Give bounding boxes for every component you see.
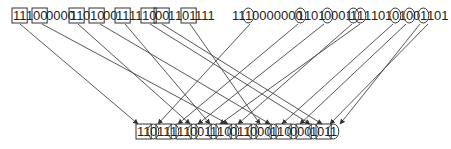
mapping-arrow <box>300 24 406 124</box>
bit-segment: 11 <box>69 8 84 23</box>
mapping-arrow <box>198 24 324 124</box>
mapping-arrow <box>150 24 310 124</box>
mapping-arrow <box>158 24 250 124</box>
arrow-group <box>20 24 428 124</box>
bit-segment: 11 <box>12 8 27 23</box>
bit-text: 11 <box>70 8 84 23</box>
bit-text: 01 <box>434 8 448 23</box>
mapping-arrow <box>238 24 352 124</box>
bit-text: 111 <box>195 8 215 23</box>
bit-text: 11 <box>13 8 27 23</box>
mapping-arrow <box>340 24 420 124</box>
mapping-arrow <box>100 24 270 124</box>
top-right-bit-string: 11100000001101000111110101001101 <box>232 8 448 23</box>
mapping-arrow <box>178 24 298 124</box>
top-left-bit-string: 1110000001101000111110001101111 <box>12 8 215 23</box>
bit-text: 11 <box>157 124 171 139</box>
bit-string-mapping-diagram: 1110000001101000111110001101111 11100000… <box>0 0 451 149</box>
bottom-bit-string: 110111110011100110001100001011 <box>136 124 339 139</box>
bit-text: 11 <box>237 124 251 139</box>
bit-text: 11 <box>177 124 191 139</box>
bit-text: 1 <box>330 124 337 139</box>
mapping-arrow <box>125 24 210 124</box>
bit-segment: 11 <box>232 8 246 23</box>
bit-text: 11 <box>129 8 143 23</box>
diagram-canvas: 1110000001101000111110001101111 11100000… <box>0 0 451 149</box>
bit-segment: 1 <box>328 124 339 139</box>
bit-text: 11 <box>232 8 246 23</box>
bit-text: 11 <box>116 8 130 23</box>
mapping-arrow <box>20 24 138 124</box>
mapping-arrow <box>282 24 393 124</box>
bit-segment: 11 <box>129 8 143 23</box>
bit-segment: 111 <box>195 8 215 23</box>
bit-text: 11 <box>137 124 151 139</box>
mapping-arrow <box>220 24 360 124</box>
bit-segment: 01 <box>434 8 448 23</box>
bit-segment: 11 <box>115 8 130 23</box>
mapping-arrow <box>330 24 428 124</box>
